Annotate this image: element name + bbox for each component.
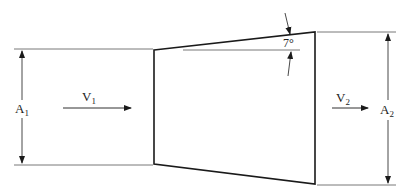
- inlet-area-label: A1: [15, 101, 29, 118]
- outlet-velocity-label: V2: [336, 90, 350, 107]
- angle-bottom-arrow: [288, 52, 291, 76]
- outlet-area-label: A2: [380, 102, 394, 119]
- diffuser-diagram: A1 V1 7° A2 V2: [0, 0, 410, 194]
- angle-top-arrow: [285, 13, 290, 34]
- inlet-velocity-label: V1: [82, 89, 96, 106]
- angle-label: 7°: [283, 36, 294, 50]
